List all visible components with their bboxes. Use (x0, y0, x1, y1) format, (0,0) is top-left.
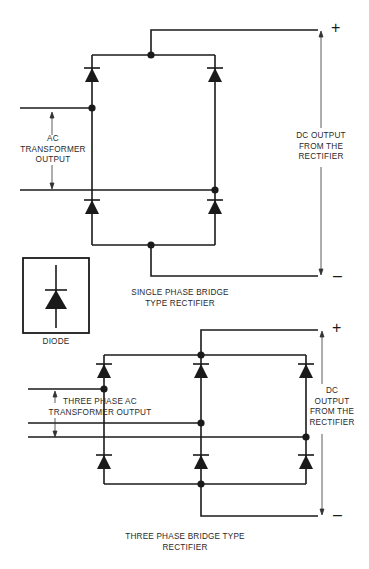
rectifier-diagram: + – AC TRANSFORMER OUTPUT DC OUTPUT FROM… (0, 0, 369, 569)
single-phase-nodes (88, 51, 218, 248)
single-phase-dc-label: DC OUTPUT FROM THE RECTIFIER (286, 131, 356, 163)
ac-label-line: THREE PHASE AC (44, 397, 156, 408)
ac-label-line: OUTPUT (18, 155, 88, 166)
single-phase-ac-label: AC TRANSFORMER OUTPUT (18, 134, 88, 166)
three-phase-ac-label: THREE PHASE AC TRANSFORMER OUTPUT (44, 397, 156, 418)
dc-label-line: FROM THE (286, 142, 356, 153)
dc-label-line: RECTIFIER (306, 418, 358, 429)
dc-label-line: DC OUTPUT (286, 131, 356, 142)
three-phase-negative-terminal: – (333, 507, 342, 523)
title-line: SINGLE PHASE BRIDGE (120, 288, 240, 299)
three-phase-title: THREE PHASE BRIDGE TYPE RECTIFIER (110, 532, 260, 553)
three-phase-bridge (28, 330, 318, 516)
single-phase-positive-terminal: + (331, 20, 340, 36)
title-line: TYPE RECTIFIER (120, 299, 240, 310)
single-phase-negative-terminal: – (333, 268, 342, 284)
dc-label-line: FROM THE (306, 407, 358, 418)
diode-legend-box (23, 258, 89, 333)
title-line: RECTIFIER (110, 543, 260, 554)
diode-legend-label: DIODE (30, 337, 82, 348)
three-phase-dc-label: DC OUTPUT FROM THE RECTIFIER (306, 386, 358, 428)
three-phase-positive-terminal: + (332, 320, 341, 336)
circuit-drawing (0, 0, 369, 569)
ac-label-line: AC (18, 134, 88, 145)
dc-label-line: OUTPUT (306, 397, 358, 408)
diode-icon (45, 290, 67, 309)
title-line: THREE PHASE BRIDGE TYPE (110, 532, 260, 543)
dc-label-line: RECTIFIER (286, 152, 356, 163)
ac-label-line: TRANSFORMER OUTPUT (44, 408, 156, 419)
ac-label-line: TRANSFORMER (18, 145, 88, 156)
single-phase-title: SINGLE PHASE BRIDGE TYPE RECTIFIER (120, 288, 240, 309)
dc-label-line: DC (306, 386, 358, 397)
single-phase-diodes (84, 68, 223, 214)
